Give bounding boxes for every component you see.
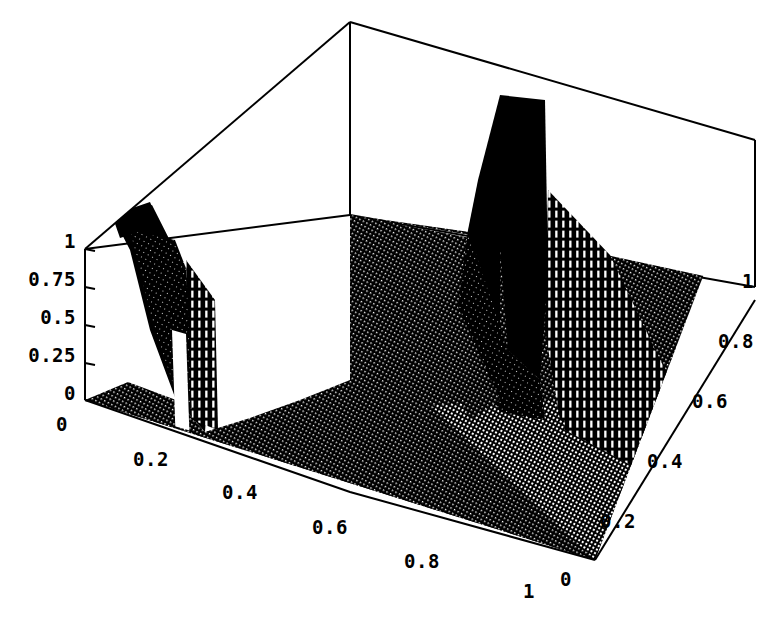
left-ridge-highlight-2 bbox=[120, 258, 137, 360]
z-tick-0-75: 0.75 bbox=[11, 270, 76, 289]
y-tick-1: 1 bbox=[742, 272, 754, 291]
surface-plot-figure: 1 0.75 0.5 0.25 0 0 0.2 0.4 0.6 0.8 1 0 … bbox=[0, 0, 777, 637]
y-tick-0-2: 0.2 bbox=[600, 512, 636, 531]
z-tick-0-5: 0.5 bbox=[22, 308, 76, 327]
x-tick-0-4: 0.4 bbox=[222, 483, 258, 502]
y-tick-0: 0 bbox=[560, 570, 572, 589]
z-tick-1: 1 bbox=[36, 232, 76, 251]
x-tick-1: 1 bbox=[523, 582, 535, 601]
plot-canvas bbox=[0, 0, 777, 637]
x-tick-0-6: 0.6 bbox=[312, 518, 348, 537]
x-tick-0-8: 0.8 bbox=[404, 552, 440, 571]
z-tick-0: 0 bbox=[36, 384, 76, 403]
x-tick-0: 0 bbox=[56, 415, 68, 434]
z-axis-ticks bbox=[85, 249, 95, 402]
y-tick-0-4: 0.4 bbox=[647, 452, 683, 471]
surface-mesh bbox=[85, 95, 755, 560]
y-tick-0-6: 0.6 bbox=[692, 392, 728, 411]
x-tick-0-2: 0.2 bbox=[133, 450, 169, 469]
z-tick-0-25: 0.25 bbox=[11, 346, 76, 365]
y-tick-0-8: 0.8 bbox=[718, 332, 754, 351]
